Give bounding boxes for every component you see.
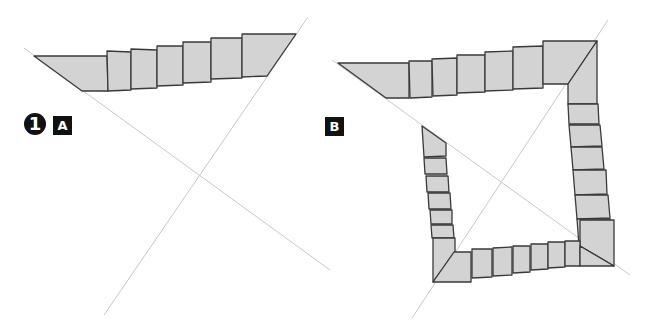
voussoir-piece: [426, 176, 449, 192]
voussoir-piece: [565, 241, 580, 266]
voussoir-piece: [131, 49, 157, 89]
voussoir-piece: [428, 193, 451, 209]
voussoir-piece: [211, 38, 242, 79]
voussoir-piece: [548, 242, 565, 268]
step-number-badge: 1: [24, 113, 46, 135]
voussoir-piece: [183, 42, 211, 83]
voussoir-piece: [338, 63, 409, 98]
arch-pieces-a: [34, 34, 296, 91]
voussoir-piece: [242, 34, 296, 77]
voussoir-piece: [472, 249, 492, 278]
voussoir-piece: [493, 247, 512, 276]
voussoir-piece: [513, 46, 543, 89]
voussoir-piece: [432, 58, 457, 96]
voussoir-piece: [424, 158, 447, 174]
voussoir-piece: [422, 126, 446, 157]
voussoir-piece: [430, 210, 452, 224]
voussoir-piece: [573, 170, 607, 195]
voussoir-piece: [513, 246, 530, 273]
panel-label-a: A: [53, 116, 72, 135]
voussoir-piece: [568, 104, 599, 124]
voussoir-piece: [157, 46, 183, 86]
voussoir-piece: [431, 225, 454, 238]
frame-pieces-b: [338, 41, 614, 282]
voussoir-piece: [107, 51, 131, 91]
diagram-canvas: [0, 0, 650, 333]
voussoir-piece: [575, 195, 610, 219]
panel-b: [332, 20, 630, 318]
voussoir-piece: [485, 51, 513, 91]
panel-a: [24, 17, 330, 315]
voussoir-piece: [34, 56, 108, 91]
panel-label-b: B: [325, 117, 344, 136]
voussoir-piece: [569, 125, 602, 147]
voussoir-piece: [409, 61, 432, 98]
voussoir-piece: [457, 55, 485, 93]
voussoir-piece: [571, 147, 604, 170]
voussoir-piece: [531, 244, 548, 270]
